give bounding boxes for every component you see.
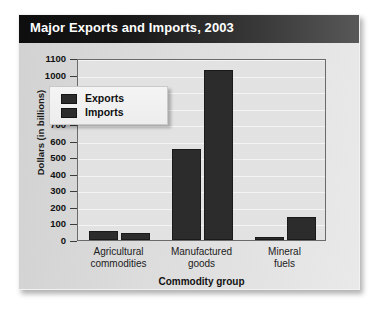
chart-screenshot: Major Exports and Imports, 2003 Dollars … [0, 0, 378, 331]
y-axis-tick [70, 125, 77, 126]
y-axis-tick [70, 76, 77, 77]
bar-imports-0 [121, 233, 150, 240]
bar-exports-2 [255, 237, 284, 240]
y-axis-tick-label: 500 [20, 152, 66, 163]
y-axis-tick-label: 400 [20, 169, 66, 180]
bar-exports-1 [172, 149, 201, 240]
y-axis-tick [70, 158, 77, 159]
y-axis-tick [70, 241, 77, 242]
bar-imports-1 [204, 70, 233, 240]
y-axis-tick-label: 600 [20, 136, 66, 147]
chart-title: Major Exports and Imports, 2003 [30, 20, 234, 35]
y-axis-tick [70, 191, 77, 192]
legend-label-imports: Imports [85, 106, 124, 118]
y-axis-tick-label: 200 [20, 202, 66, 213]
y-axis-tick [70, 224, 77, 225]
legend-swatch-imports [61, 108, 77, 118]
legend-swatch-exports [61, 94, 77, 104]
chart-title-bar: Major Exports and Imports, 2003 [19, 15, 359, 43]
chart-legend: Exports Imports [49, 86, 168, 125]
y-axis-tick [70, 208, 77, 209]
card-background: Major Exports and Imports, 2003 Dollars … [19, 15, 359, 289]
y-axis-tick-label: 1000 [20, 70, 66, 81]
x-axis-title: Commodity group [77, 276, 326, 287]
y-axis-tick [70, 59, 77, 60]
bar-exports-0 [89, 231, 118, 240]
chart-card: Major Exports and Imports, 2003 Dollars … [18, 14, 360, 290]
chart-area: Dollars (in billions) 010020030040050060… [19, 43, 359, 289]
y-axis-tick-label: 300 [20, 185, 66, 196]
y-axis-tick [70, 142, 77, 143]
y-axis-tick-label: 0 [20, 235, 66, 246]
y-axis-tick-label: 1100 [20, 53, 66, 64]
y-axis-tick [70, 175, 77, 176]
bar-imports-2 [287, 217, 316, 240]
y-axis-tick-label: 100 [20, 218, 66, 229]
legend-label-exports: Exports [85, 92, 124, 104]
x-axis-label-2: Mineralfuels [225, 246, 345, 270]
